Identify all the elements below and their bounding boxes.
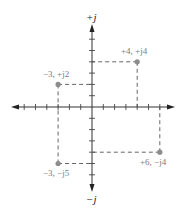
imag-positive-axis-label: +j [86, 12, 96, 23]
dashed-guides [58, 62, 160, 164]
point-label: +4, +j4 [121, 47, 147, 56]
arrow-up-icon [90, 24, 95, 32]
point-label: +6, −j4 [140, 158, 166, 167]
point-marker [56, 82, 61, 87]
point-marker [56, 161, 61, 166]
arrow-right-icon [167, 105, 175, 110]
point-label: −3, +j2 [43, 70, 69, 79]
arrow-left-icon [11, 105, 19, 110]
point-marker [157, 150, 162, 155]
complex-plane [0, 0, 183, 215]
point-label: −3, −j5 [43, 169, 69, 178]
point-marker [135, 59, 140, 64]
arrow-down-icon [90, 184, 95, 192]
points [56, 59, 163, 166]
imag-negative-axis-label: −j [86, 194, 96, 205]
